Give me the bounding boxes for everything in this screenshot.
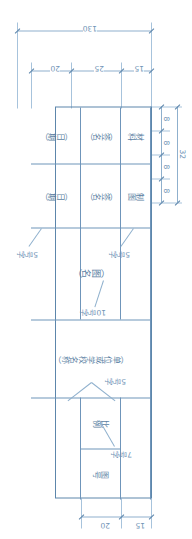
cell-drawn-by: 制图 xyxy=(121,163,151,227)
drawing-canvas: 32 8 8 8 8 15 xyxy=(0,0,192,539)
note-font7: 7号字 xyxy=(111,448,132,459)
title-block-table: 材料 制图 （签名） （签名） （日期） （日期） （图名） （单位或学校名称）… xyxy=(55,106,152,498)
note-font10: 10号字 xyxy=(80,306,106,317)
note-font5-b: 5号字 xyxy=(17,248,38,259)
cell-signature-2: （签名） xyxy=(81,163,121,227)
dimension-total-130: 130 xyxy=(83,22,97,33)
dimension-right-20: 20 xyxy=(100,519,110,530)
cell-org-name: （单位或学校名称） xyxy=(31,319,151,397)
dimension-right-15: 15 xyxy=(135,519,145,530)
cell-material: 材料 xyxy=(121,107,151,163)
dimension-seg-8-3: 8 xyxy=(162,163,171,170)
dimension-seg-20: 20 xyxy=(50,62,60,73)
dimension-seg-25: 25 xyxy=(94,62,104,73)
cell-signature-1: （签名） xyxy=(81,107,121,163)
dimension-seg-8-1: 8 xyxy=(162,115,171,122)
cell-drawing-name: （图名） xyxy=(31,227,151,319)
dimension-seg-15: 15 xyxy=(134,62,144,73)
cell-date-1: （日期） xyxy=(31,107,81,163)
note-font5-a: 5号字 xyxy=(109,248,130,259)
title-block-sheet: 32 8 8 8 8 15 xyxy=(0,0,192,539)
dimension-total-32: 32 xyxy=(178,148,187,160)
cell-date-2: （日期） xyxy=(31,163,81,227)
dimension-seg-8-2: 8 xyxy=(162,139,171,146)
dimension-seg-8-4: 8 xyxy=(162,187,171,194)
note-font5-c: 5号字 xyxy=(105,375,126,386)
